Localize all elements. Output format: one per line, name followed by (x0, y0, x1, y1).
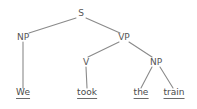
node-v: V (83, 57, 89, 67)
leaf-we: We (16, 87, 30, 99)
leaf-the: the (134, 87, 149, 99)
node-s: S (78, 8, 84, 18)
syntax-tree-diagram: S NP VP V NP We took the train (0, 0, 197, 109)
edge-s-to-np-subject (29, 18, 76, 33)
leaf-train: train (164, 87, 185, 99)
leaf-took: took (77, 87, 97, 99)
edge-v-to-took (86, 67, 87, 88)
edge-s-to-vp (86, 18, 120, 33)
edge-np-object-to-the (141, 67, 152, 88)
node-np-object: NP (150, 57, 162, 67)
edge-vp-to-np-object (129, 42, 152, 57)
node-np-subject: NP (17, 32, 29, 42)
node-vp: VP (118, 32, 130, 42)
edge-vp-to-v (88, 42, 119, 57)
edge-np-object-to-train (160, 67, 173, 88)
